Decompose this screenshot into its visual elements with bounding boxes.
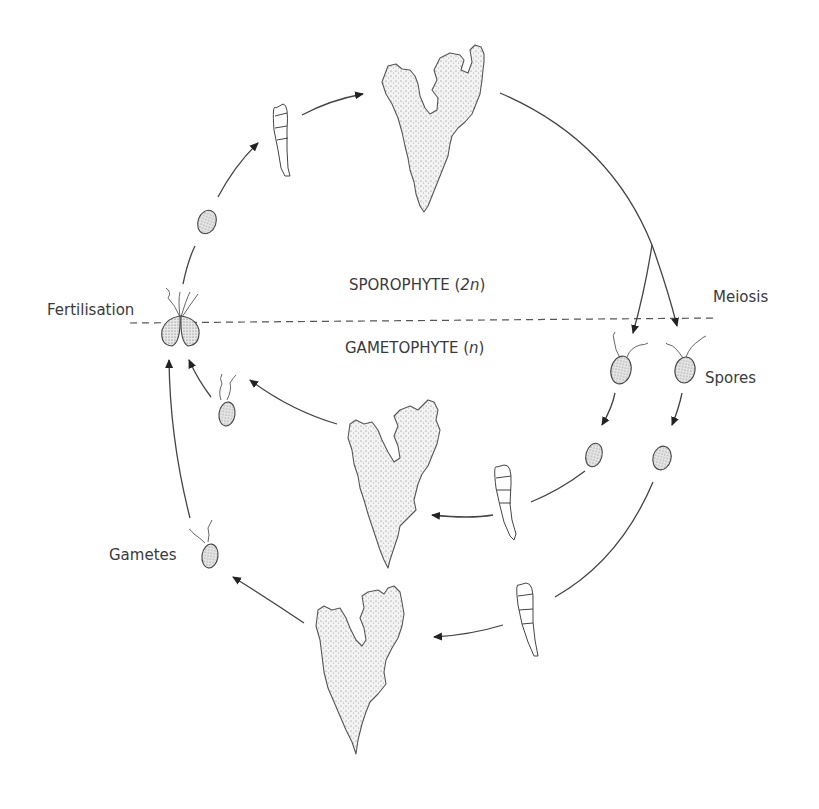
gametophyte-close: ) <box>479 339 485 357</box>
arrow-meiosis-spore-2 <box>652 245 677 326</box>
label-gametes: Gametes <box>109 548 177 563</box>
arrow-cell-to-germling <box>218 143 258 197</box>
arc-spore-1-to-germling <box>531 471 585 502</box>
gametophyte-thallus-1 <box>348 400 440 568</box>
arrow-germling-to-gametophyte-2 <box>434 625 503 637</box>
sporophyte-germling <box>273 104 290 176</box>
spore-2 <box>666 336 706 385</box>
sporophyte-thallus <box>382 45 484 212</box>
arrow-meiosis-spore-1 <box>633 245 652 333</box>
arc-sporophyte-to-meiosis <box>500 93 652 245</box>
gametophyte-name: GAMETOPHYTE ( <box>345 339 469 357</box>
arrow-gamete-1-to-zygote <box>189 360 211 397</box>
arc-spore-2-to-germling <box>555 482 653 597</box>
phase-divider-line <box>130 318 718 323</box>
fertilisation-zygote <box>162 288 199 346</box>
arrow-spore-2-settle <box>672 393 682 425</box>
gametophyte-ploidy: n <box>469 339 479 357</box>
spore-1 <box>608 332 648 386</box>
arrow-gamete-2-to-zygote <box>169 360 190 518</box>
diagram-canvas <box>0 0 819 809</box>
settled-spore-2 <box>650 444 674 472</box>
label-sporophyte: SPOROPHYTE (2n) <box>349 278 485 293</box>
label-spores: Spores <box>705 371 756 386</box>
arrow-gametophyte-2-to-gamete <box>233 577 304 623</box>
sporophyte-name: SPOROPHYTE ( <box>349 276 460 294</box>
gametophyte-germling-1 <box>495 465 516 540</box>
sporophyte-ploidy: 2n <box>460 276 479 294</box>
gamete-1 <box>217 374 236 427</box>
arrow-spore-1-settle <box>602 393 615 425</box>
life-cycle-diagram: Fertilisation Meiosis Spores Gametes SPO… <box>0 0 819 809</box>
gametophyte-thallus-2 <box>316 586 404 754</box>
arc-zygote-to-cell <box>183 246 195 284</box>
label-fertilisation: Fertilisation <box>47 303 134 318</box>
arrow-germling-to-sporophyte <box>302 94 363 115</box>
label-meiosis: Meiosis <box>713 290 768 305</box>
gametophyte-germling-2 <box>517 583 538 656</box>
settled-spore-1 <box>583 441 605 468</box>
label-gametophyte: GAMETOPHYTE (n) <box>345 341 484 356</box>
gamete-2 <box>189 520 220 569</box>
arrow-gametophyte-1-to-gamete <box>250 380 337 424</box>
sporophyte-close: ) <box>479 276 485 294</box>
zygote-cell <box>194 208 219 237</box>
arrow-germling-to-gametophyte-1 <box>432 515 493 517</box>
